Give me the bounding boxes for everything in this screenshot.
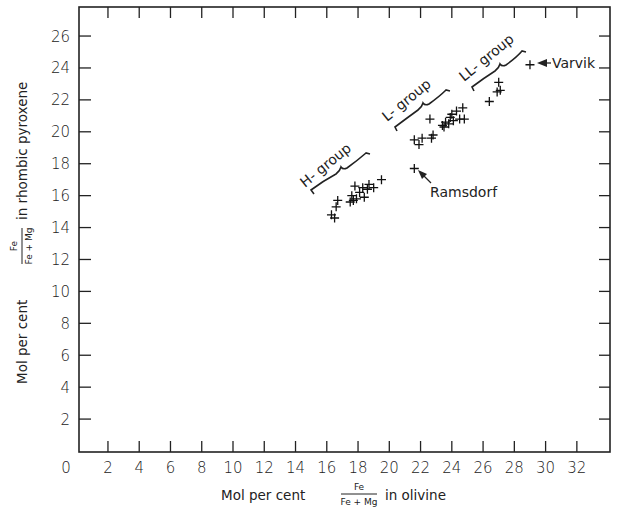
x-tick-label: 14 (286, 459, 305, 477)
y-tick-label: 22 (51, 91, 70, 109)
y-axis-ticks (79, 36, 610, 419)
x-tick-label: 26 (474, 459, 493, 477)
plus-marker-icon (425, 115, 434, 124)
plus-marker-icon (333, 196, 342, 205)
plus-marker-icon (410, 164, 419, 173)
plus-marker-icon (410, 135, 419, 144)
x-tick-label: 12 (255, 459, 274, 477)
plus-marker-icon (332, 202, 341, 211)
y-tick-label: 16 (51, 187, 70, 205)
x-tick-label: 10 (223, 459, 242, 477)
y-tick-label: 4 (60, 379, 70, 397)
plus-marker-icon (485, 97, 494, 106)
ramsdorf-label: Ramsdorf (430, 184, 498, 200)
y-tick-label: 10 (51, 283, 70, 301)
x-tick-label: 16 (317, 459, 336, 477)
x-tick-label: 4 (134, 459, 144, 477)
x-axis-tick-labels: 02468101214161820222426283032 (61, 459, 586, 477)
plus-marker-icon (360, 193, 369, 202)
x-tick-label: 6 (166, 459, 176, 477)
series-ramsdorf (410, 164, 419, 173)
x-tick-label: 22 (411, 459, 430, 477)
y-tick-label: 8 (60, 315, 70, 333)
y-tick-label: 12 (51, 251, 70, 269)
y-tick-label: 6 (60, 347, 70, 365)
x-axis-ticks (108, 7, 577, 452)
y-tick-label: 24 (51, 59, 70, 77)
x-tick-label: 24 (442, 459, 461, 477)
y-axis-title: Mol per cent Fe Fe + Mg in rhombic pyrox… (9, 82, 34, 384)
y-axis-tick-labels: 2468101214161820222426 (51, 28, 70, 429)
series-ll-group (485, 78, 505, 106)
x-axis-title-numerator: Fe (354, 482, 365, 492)
x-tick-label: 30 (536, 459, 555, 477)
scatter-chart: 02468101214161820222426283032 2468101214… (0, 0, 618, 523)
y-tick-label: 26 (51, 28, 70, 46)
y-axis-title-prefix: Mol per cent (14, 300, 30, 384)
x-axis-title: Mol per cent Fe Fe + Mg in olivine (221, 482, 446, 507)
x-tick-label: 0 (61, 459, 71, 477)
varvik-label: Varvik (552, 55, 596, 71)
y-tick-label: 14 (51, 219, 70, 237)
y-axis-title-numerator: Fe (9, 240, 19, 251)
x-tick-label: 2 (103, 459, 113, 477)
x-axis-title-denominator: Fe + Mg (341, 497, 378, 507)
plus-marker-icon (377, 175, 386, 184)
x-tick-label: 32 (567, 459, 586, 477)
y-axis-title-suffix: in rhombic pyroxene (14, 82, 30, 220)
plus-marker-icon (460, 115, 469, 124)
plus-marker-icon (350, 182, 359, 191)
series-h-group (327, 175, 386, 222)
plus-marker-icon (525, 60, 534, 69)
y-tick-label: 20 (51, 123, 70, 141)
x-tick-label: 28 (505, 459, 524, 477)
plus-marker-icon (494, 78, 503, 87)
x-tick-label: 20 (380, 459, 399, 477)
h-group-label: H- group (297, 140, 354, 191)
y-tick-label: 18 (51, 155, 70, 173)
x-tick-label: 8 (197, 459, 207, 477)
l-group-label: L- group (379, 76, 434, 125)
x-axis-title-suffix: in olivine (385, 487, 446, 503)
x-axis-title-prefix: Mol per cent (221, 487, 305, 503)
y-tick-label: 2 (60, 411, 70, 429)
series-varvik (525, 60, 534, 69)
x-tick-label: 18 (348, 459, 367, 477)
plot-frame (79, 7, 610, 452)
plus-marker-icon (363, 185, 372, 194)
y-axis-title-denominator: Fe + Mg (24, 228, 34, 265)
